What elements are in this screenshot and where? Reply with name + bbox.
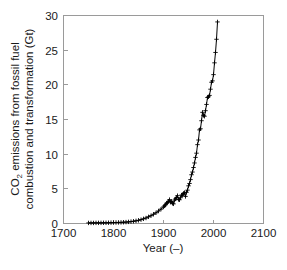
x-axis-title: Year (–): [143, 242, 184, 254]
co2-emissions-chart: 17001800190020002100 051015202530 Year (…: [0, 0, 287, 270]
figure-container: 17001800190020002100 051015202530 Year (…: [0, 0, 287, 270]
y-tick-label: 20: [45, 79, 58, 91]
y-axis-title-line2: combustion and transformation (Gt): [23, 28, 35, 209]
y-tick-label: 10: [45, 149, 58, 161]
x-tick-label: 1800: [101, 227, 127, 239]
x-tick-label: 1900: [151, 227, 177, 239]
y-tick-label: 15: [45, 114, 58, 126]
y-tick-label: 0: [52, 218, 58, 230]
x-tick-label: 2100: [251, 227, 277, 239]
x-tick-label: 2000: [201, 227, 227, 239]
y-tick-label: 5: [52, 183, 58, 195]
y-tick-label: 30: [45, 10, 58, 22]
y-tick-label: 25: [45, 45, 58, 57]
chart-background: [0, 0, 287, 270]
